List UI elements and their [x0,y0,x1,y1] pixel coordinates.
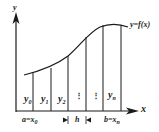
y-axis-label: y [13,4,17,12]
label-b-equals-xn: b=xn [104,116,120,125]
x-axis-label: x [141,104,146,114]
ordinate-label-y1: y1 [41,94,48,105]
ordinate-ellipsis-1: ⋮ [75,92,83,100]
h-left-arrow-icon [63,118,68,123]
ordinate-label-y0: y0 [24,94,31,105]
curve-label: y=f(x) [130,21,150,29]
ordinate-ellipsis-2: ⋮ [92,92,100,100]
h-right-arrow-icon [86,118,91,123]
curve-f-of-x [24,24,128,75]
label-step-h: h [75,116,79,124]
ordinate-label-y2: y2 [58,94,65,105]
partition-diagram: y x y=f(x) y0 y1 y2 ⋮ ⋮ yn a=x0 h b=xn [0,0,159,132]
label-a-equals-x0: a=x0 [22,116,38,125]
ordinate-label-yn: yn [108,90,116,101]
